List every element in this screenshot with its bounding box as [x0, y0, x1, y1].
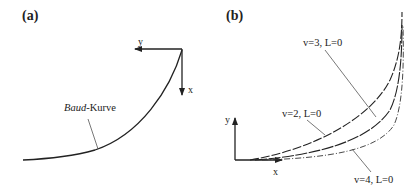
v3-label: v=3, L=0 [303, 37, 342, 48]
v3-leader-line [325, 50, 376, 117]
curve-v2 [250, 12, 402, 160]
y-axis-label: y [138, 36, 143, 47]
v4-leader-line [352, 149, 371, 172]
x-axis-label: x [273, 166, 278, 177]
panel-a-label: (a) [22, 8, 39, 24]
panel-a: (a) y x Baud-Kurve [22, 8, 193, 160]
v4-label: v=4, L=0 [354, 174, 393, 185]
v2-leader-line [307, 120, 325, 135]
figure: (a) y x Baud-Kurve (b) y x v=3, L=0 [0, 0, 418, 189]
baud-curve-label: Baud-Kurve [64, 102, 116, 113]
panel-a-axes: y x [135, 36, 193, 95]
y-axis-label: y [225, 114, 230, 125]
panel-b-label: (b) [226, 8, 243, 24]
baud-curve-leader-line [88, 119, 98, 149]
panel-b-axes: y x [225, 114, 282, 177]
panel-b: (b) y x v=3, L=0 v=2, L=0 v=4, L=0 [225, 8, 403, 185]
v2-label: v=2, L=0 [282, 108, 321, 119]
x-axis-label: x [188, 84, 193, 95]
